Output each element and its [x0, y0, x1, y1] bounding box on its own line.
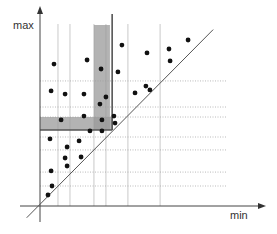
- data-point: [49, 169, 54, 174]
- data-point: [48, 137, 53, 142]
- data-point: [77, 139, 82, 144]
- data-point: [99, 67, 104, 72]
- data-point: [63, 156, 68, 161]
- y-axis-arrow-icon: [37, 6, 43, 14]
- y-axis-label: max: [13, 19, 34, 31]
- data-point: [49, 89, 54, 94]
- data-point: [79, 155, 84, 160]
- range-query-diagram: max min: [0, 0, 277, 234]
- data-point: [147, 88, 152, 93]
- data-point: [143, 84, 148, 89]
- x-axis-label: min: [230, 209, 248, 221]
- data-point: [116, 70, 121, 75]
- x-axis-arrow-icon: [258, 203, 266, 209]
- data-point: [100, 118, 105, 123]
- data-point: [50, 184, 55, 189]
- data-point: [85, 58, 90, 63]
- axes: [20, 6, 266, 222]
- data-point: [133, 91, 138, 96]
- query-bands: [40, 14, 112, 130]
- data-point: [145, 51, 150, 56]
- data-point: [120, 43, 125, 48]
- vertical-query-band: [94, 25, 110, 130]
- data-point: [186, 38, 191, 43]
- data-point: [167, 47, 172, 52]
- data-point: [65, 145, 70, 150]
- data-point: [98, 102, 103, 107]
- data-point: [104, 95, 109, 100]
- data-point: [63, 92, 68, 97]
- data-point: [82, 92, 87, 97]
- data-point: [52, 62, 57, 67]
- data-point: [46, 193, 51, 198]
- data-point: [113, 121, 118, 126]
- data-point: [168, 59, 173, 64]
- data-point: [88, 129, 93, 134]
- data-point: [65, 164, 70, 169]
- grid-lines: [40, 24, 226, 206]
- data-point: [59, 118, 64, 123]
- data-point: [82, 114, 87, 119]
- data-point: [100, 129, 105, 134]
- data-point: [112, 114, 117, 119]
